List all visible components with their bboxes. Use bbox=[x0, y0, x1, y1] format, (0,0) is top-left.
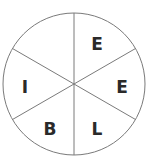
segment-letter-right: E bbox=[116, 77, 128, 97]
segment-letter-bottom-right: L bbox=[92, 119, 103, 139]
letter-wheel: E E L B I bbox=[0, 0, 147, 158]
segment-letter-left: I bbox=[22, 77, 28, 97]
segment-letter-bottom-left: B bbox=[44, 119, 57, 139]
segment-letter-top-right: E bbox=[91, 34, 103, 54]
